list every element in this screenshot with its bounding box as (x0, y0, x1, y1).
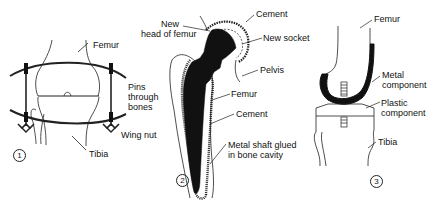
label-cement-top: Cement (256, 9, 288, 19)
figure-1-knee-fixator (10, 40, 126, 150)
figure-number-2: 2 (176, 174, 189, 187)
figure-3-knee-replacement (314, 20, 380, 166)
figure-number-1: 1 (13, 149, 26, 162)
label-cement-mid: Cement (236, 109, 268, 119)
label-metal-line1: Metal (382, 70, 404, 80)
label-metal-line2: component (382, 80, 427, 90)
label-pins-line2: through (128, 92, 159, 102)
label-femur-2: Femur (231, 89, 257, 99)
label-tibia-1: Tibia (89, 149, 108, 159)
label-pins-line1: Pins (128, 82, 146, 92)
label-shaft-line1: Metal shaft glued (228, 140, 297, 150)
label-femur-1: Femur (93, 40, 119, 50)
figure-2-hip-replacement (170, 15, 262, 199)
label-femur-3: Femur (374, 14, 400, 24)
label-pins-line3: bones (128, 102, 153, 112)
label-new-head-line1: New (161, 19, 179, 29)
diagram-canvas (0, 0, 437, 206)
label-plastic-line2: component (381, 108, 426, 118)
label-plastic-line1: Plastic (381, 98, 408, 108)
label-shaft-line2: in bone cavity (228, 150, 283, 160)
label-wing-nut: Wing nut (121, 130, 157, 140)
label-new-socket: New socket (263, 33, 310, 43)
figure-number-3: 3 (370, 175, 383, 188)
label-new-head-line2: head of femur (141, 29, 197, 39)
label-tibia-3: Tibia (378, 137, 397, 147)
label-pelvis: Pelvis (260, 65, 284, 75)
